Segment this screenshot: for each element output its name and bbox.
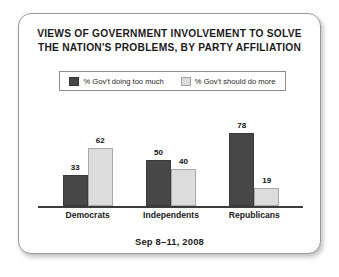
- bar-value-independents-dark: 50: [154, 148, 163, 158]
- x-label-republicans: Republicans: [216, 210, 292, 220]
- chart-footer-date: Sep 8–11, 2008: [19, 236, 320, 247]
- bar-wrap-republicans-dark: 78: [229, 121, 254, 206]
- bar-value-democrats-light: 62: [96, 136, 105, 146]
- bar-republicans-dark: [229, 133, 254, 206]
- title-line-1: VIEWS OF GOVERNMENT INVOLVEMENT TO SOLVE: [19, 27, 320, 41]
- bar-wrap-democrats-light: 62: [88, 136, 113, 206]
- bar-value-republicans-light: 19: [262, 176, 271, 186]
- bar-democrats-dark: [63, 175, 88, 206]
- legend-item-gov-doing-too-much: % Gov't doing too much: [69, 77, 163, 86]
- bar-independents-dark: [146, 160, 171, 207]
- page-title: VIEWS OF GOVERNMENT INVOLVEMENT TO SOLVE…: [19, 27, 320, 54]
- bar-wrap-independents-light: 40: [171, 157, 196, 206]
- bar-wrap-republicans-light: 19: [254, 176, 279, 206]
- bar-value-independents-light: 40: [179, 157, 188, 167]
- chart-legend: % Gov't doing too much % Gov't should do…: [59, 71, 286, 91]
- legend-item-gov-should-do-more: % Gov't should do more: [181, 77, 276, 86]
- bar-wrap-democrats-dark: 33: [63, 163, 88, 206]
- x-label-independents: Independents: [133, 210, 209, 220]
- title-line-2: THE NATION'S PROBLEMS, BY PARTY AFFILIAT…: [19, 41, 320, 55]
- chart-card: VIEWS OF GOVERNMENT INVOLVEMENT TO SOLVE…: [18, 13, 321, 254]
- bar-value-republicans-dark: 78: [237, 121, 246, 131]
- bar-wrap-independents-dark: 50: [146, 148, 171, 207]
- bar-republicans-light: [254, 188, 279, 206]
- x-axis-labels: Democrats Independents Republicans: [46, 210, 296, 220]
- bar-groups: 33 62 50 40: [46, 101, 296, 206]
- plot-area: 33 62 50 40: [46, 101, 296, 206]
- bar-independents-light: [171, 169, 196, 206]
- legend-swatch-icon-light: [181, 77, 191, 86]
- bar-group-independents: 50 40: [146, 148, 196, 207]
- legend-label-light: % Gov't should do more: [195, 77, 276, 86]
- bar-group-democrats: 33 62: [63, 136, 113, 206]
- bar-value-democrats-dark: 33: [71, 163, 80, 173]
- x-axis-line: [38, 206, 303, 208]
- x-label-democrats: Democrats: [50, 210, 126, 220]
- legend-label-dark: % Gov't doing too much: [83, 77, 163, 86]
- bar-democrats-light: [88, 148, 113, 206]
- chart-screenshot: VIEWS OF GOVERNMENT INVOLVEMENT TO SOLVE…: [0, 0, 339, 277]
- legend-swatch-icon-dark: [69, 77, 79, 86]
- bar-group-republicans: 78 19: [229, 121, 279, 206]
